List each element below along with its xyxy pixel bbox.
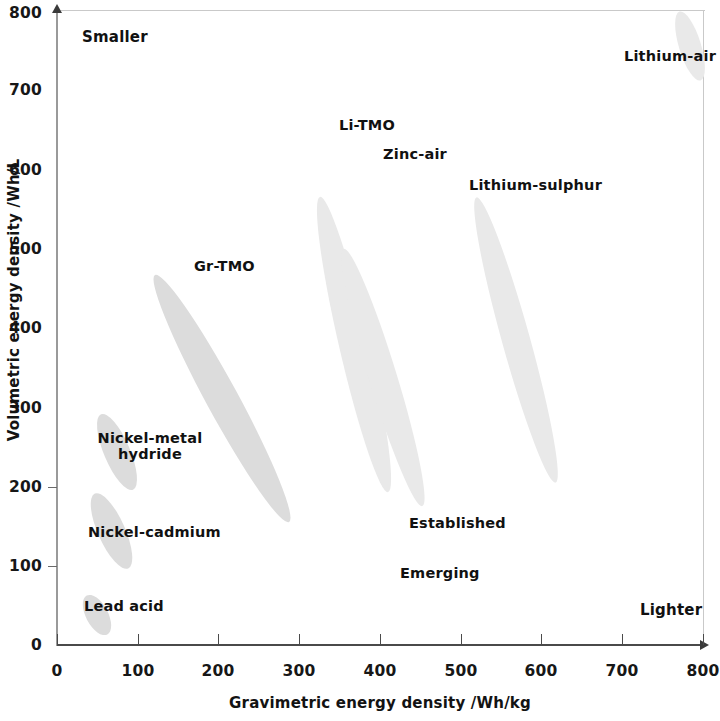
data-label-gr-tmo: Gr-TMO [194, 258, 255, 274]
data-label-nickel-metal-hydride: Nickel-metal hydride [90, 430, 210, 462]
region-gr-tmo [141, 267, 303, 529]
data-label-lithium-sulphur: Lithium-sulphur [469, 177, 602, 193]
y-ticklabel-100: 100 [0, 557, 42, 575]
nimh-label-line1: Nickel-metal [98, 430, 203, 446]
data-label-li-tmo: Li-TMO [339, 117, 395, 133]
data-label-lithium-air: Lithium-air [624, 48, 716, 64]
y-ticklabel-0: 0 [0, 636, 42, 654]
x-ticklabel-400: 400 [364, 662, 397, 680]
legend-swatch-emerging [371, 559, 397, 591]
legend-label-established: Established [409, 515, 506, 531]
legend-label-emerging: Emerging [400, 565, 480, 581]
y-axis-line [56, 10, 58, 646]
x-ticklabel-200: 200 [202, 662, 235, 680]
x-tick-100 [138, 634, 139, 645]
x-ticklabel-700: 700 [606, 662, 639, 680]
y-axis-title: Volumetric energy density /Wh/L [5, 100, 23, 500]
x-ticklabel-100: 100 [122, 662, 155, 680]
x-ticklabel-0: 0 [52, 662, 63, 680]
x-ticklabel-600: 600 [525, 662, 558, 680]
x-tick-500 [461, 634, 462, 645]
y-axis-arrow-icon [52, 4, 62, 13]
y-tick-100 [48, 566, 57, 567]
region-lithium-sulphur [463, 194, 569, 487]
annotation-lighter: Lighter [640, 601, 702, 619]
y-ticklabel-800: 800 [0, 4, 42, 22]
x-axis-arrow-icon [700, 640, 709, 650]
x-ticklabel-800: 800 [687, 662, 720, 680]
data-label-zinc-air: Zinc-air [383, 146, 447, 162]
region-li-tmo [305, 194, 402, 496]
legend-swatch-established [371, 508, 397, 540]
region-lithium-air [669, 8, 711, 83]
data-label-lead-acid: Lead acid [84, 598, 164, 614]
x-ticklabel-500: 500 [445, 662, 478, 680]
x-tick-400 [380, 634, 381, 645]
plot-border-top [57, 10, 705, 11]
x-tick-300 [299, 634, 300, 645]
battery-energy-density-chart: Established Emerging Gr-TMO Li-TMO Zinc-… [0, 0, 720, 721]
x-tick-0 [57, 634, 58, 645]
x-tick-200 [218, 634, 219, 645]
x-axis-title: Gravimetric energy density /Wh/kg [0, 694, 720, 712]
annotation-smaller: Smaller [82, 28, 148, 46]
nimh-label-line2: hydride [118, 446, 182, 462]
x-tick-600 [541, 634, 542, 645]
x-tick-700 [622, 634, 623, 645]
y-ticklabel-700: 700 [0, 81, 42, 99]
plot-border-right [703, 10, 704, 646]
y-tick-200 [48, 487, 57, 488]
data-label-nickel-cadmium: Nickel-cadmium [88, 524, 221, 540]
x-ticklabel-300: 300 [283, 662, 316, 680]
x-tick-800 [703, 634, 704, 645]
